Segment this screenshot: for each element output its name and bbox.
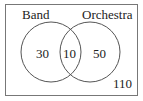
band-label: Band [22,7,50,22]
neither-count: 110 [113,76,132,91]
orchestra-label: Orchestra [82,7,133,22]
venn-diagram: Band Orchestra 30 10 50 110 [0,0,143,101]
orchestra-only-count: 50 [93,46,106,61]
both-count: 10 [63,46,76,61]
band-only-count: 30 [36,46,49,61]
